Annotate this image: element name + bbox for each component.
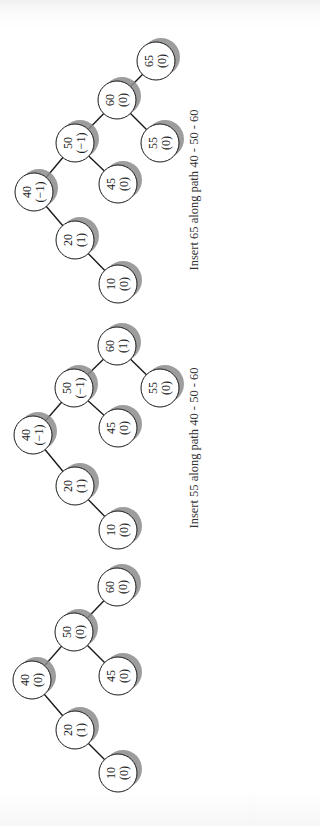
node-balance: (1) <box>74 233 88 247</box>
tree-node: 45(0) <box>99 161 142 203</box>
node-key: 55 <box>146 382 160 394</box>
node-key: 45 <box>104 670 118 682</box>
node-key: 60 <box>103 94 117 106</box>
node-key: 60 <box>103 340 117 352</box>
avl-tree-figure: 65(0)60(0)50(−1)55(0)40(−1)45(0)20(1)10(… <box>0 0 213 826</box>
node-balance: (0) <box>155 54 169 68</box>
tree-node: 45(0) <box>99 653 142 695</box>
tree-node: 20(1) <box>56 217 99 259</box>
node-balance: (0) <box>73 625 87 639</box>
tree-node: 40(−1) <box>14 412 57 454</box>
node-balance: (0) <box>117 766 131 780</box>
node-key: 45 <box>104 178 118 190</box>
node-balance: (−1) <box>33 182 47 203</box>
node-key: 20 <box>61 234 75 246</box>
node-key: 20 <box>61 724 75 736</box>
node-balance: (0) <box>159 136 173 150</box>
tree-node: 60(1) <box>98 323 141 365</box>
tree-node: 10(0) <box>99 750 142 792</box>
node-balance: (0) <box>117 177 131 191</box>
tree-node: 45(0) <box>99 405 142 447</box>
tree-node: 55(0) <box>141 120 184 162</box>
tree-node: 10(0) <box>99 507 142 549</box>
tree-insert-55: 60(1)50(−1)55(0)40(−1)45(0)20(1)10(0)Ins… <box>14 323 201 549</box>
tree-caption: Insert 65 along path 40 - 50 - 60 <box>187 109 201 270</box>
node-balance: (0) <box>117 523 131 537</box>
node-balance: (1) <box>74 479 88 493</box>
tree-initial: 60(0)50(0)45(0)40(0)20(1)10(0) <box>13 564 142 792</box>
tree-node: 20(1) <box>56 463 99 505</box>
node-key: 50 <box>60 382 74 394</box>
node-key: 40 <box>19 429 33 441</box>
node-balance: (0) <box>117 669 131 683</box>
node-key: 65 <box>142 55 156 67</box>
node-key: 60 <box>103 581 117 593</box>
tree-node: 60(0) <box>98 564 141 606</box>
tree-node: 50(−1) <box>55 365 98 407</box>
node-balance: (−1) <box>73 378 87 399</box>
node-balance: (−1) <box>74 133 88 154</box>
node-key: 45 <box>104 422 118 434</box>
tree-node: 55(0) <box>141 365 184 407</box>
node-key: 20 <box>61 480 75 492</box>
node-balance: (−1) <box>32 425 46 446</box>
node-key: 40 <box>20 186 34 198</box>
tree-node: 10(0) <box>99 261 142 303</box>
node-key: 50 <box>61 137 75 149</box>
node-key: 10 <box>104 767 118 779</box>
node-key: 50 <box>60 626 74 638</box>
node-balance: (0) <box>116 93 130 107</box>
node-balance: (1) <box>74 723 88 737</box>
tree-node: 65(0) <box>137 38 180 80</box>
node-balance: (0) <box>116 580 130 594</box>
tree-node: 40(0) <box>13 657 56 699</box>
node-balance: (0) <box>31 673 45 687</box>
tree-insert-65: 65(0)60(0)50(−1)55(0)40(−1)45(0)20(1)10(… <box>15 38 201 303</box>
node-key: 10 <box>104 278 118 290</box>
tree-node: 40(−1) <box>15 169 58 211</box>
tree-node: 60(0) <box>98 77 141 119</box>
node-key: 40 <box>18 674 32 686</box>
tree-node: 20(1) <box>56 707 99 749</box>
node-balance: (0) <box>159 381 173 395</box>
tree-node: 50(−1) <box>56 120 99 162</box>
tree-caption: Insert 55 along path 40 - 50 - 60 <box>187 367 201 528</box>
node-balance: (0) <box>117 277 131 291</box>
tree-node: 50(0) <box>55 609 98 651</box>
node-key: 55 <box>146 137 160 149</box>
node-balance: (1) <box>116 339 130 353</box>
node-key: 10 <box>104 524 118 536</box>
node-balance: (0) <box>117 421 131 435</box>
